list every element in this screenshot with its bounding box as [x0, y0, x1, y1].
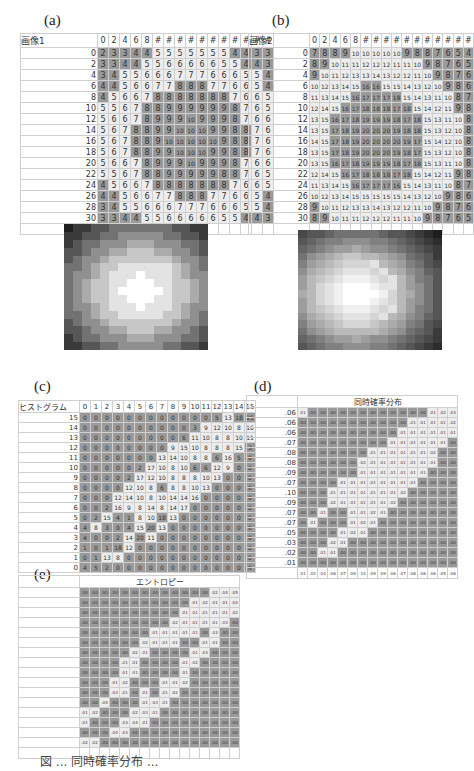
- value-cell: 10: [135, 483, 146, 493]
- value-cell: .01: [110, 678, 120, 688]
- value-cell: 0: [223, 533, 234, 543]
- value-cell: .00: [328, 408, 338, 418]
- value-cell: 8: [212, 433, 223, 443]
- heat-pixel: [154, 342, 163, 350]
- value-cell: .01: [408, 448, 418, 458]
- figure-page: (a) 画像102468###########02334455555554433…: [0, 0, 474, 771]
- value-cell: .00: [230, 678, 240, 688]
- value-cell: .00: [368, 538, 378, 548]
- value-cell: .00: [80, 688, 90, 698]
- heat-pixel: [379, 290, 388, 298]
- heat-pixel: [64, 334, 73, 342]
- heat-pixel: [127, 263, 136, 271]
- value-cell: .00: [190, 668, 200, 678]
- heat-pixel: [145, 240, 154, 248]
- value-cell: .00: [358, 558, 368, 568]
- value-cell: .00: [110, 598, 120, 608]
- heat-pixel: [298, 245, 307, 253]
- heat-pixel: [190, 303, 199, 311]
- row-header: 9: [19, 473, 80, 483]
- heat-pixel: [172, 295, 181, 303]
- value-cell: .00: [180, 698, 190, 708]
- heat-pixel: [406, 298, 415, 306]
- value-cell: 11: [350, 59, 360, 70]
- row-header: 3: [19, 533, 80, 543]
- heat-pixel: [379, 283, 388, 291]
- value-cell: 17: [135, 473, 146, 483]
- value-cell: 17: [361, 180, 371, 191]
- value-cell: .01: [150, 628, 160, 638]
- footer-cell: .06: [328, 568, 338, 579]
- table-row: 04520000000000000: [19, 563, 256, 573]
- heat-pixel: [163, 319, 172, 327]
- heat-pixel: [325, 230, 334, 238]
- value-cell: 8: [412, 48, 422, 59]
- value-cell: 6: [230, 81, 241, 92]
- value-cell: 6: [164, 70, 175, 81]
- value-cell: .01: [338, 488, 348, 498]
- value-cell: 12: [340, 202, 350, 213]
- heat-pixel: [100, 232, 109, 240]
- row-header: 20: [249, 158, 310, 169]
- value-cell: 10: [361, 48, 371, 59]
- value-cell: .02: [230, 608, 240, 618]
- heat-pixel: [397, 290, 406, 298]
- heat-pixel: [307, 253, 316, 261]
- heat-pixel: [127, 240, 136, 248]
- value-cell: 13: [157, 523, 168, 533]
- heat-pixel: [154, 334, 163, 342]
- heat-pixel: [64, 303, 73, 311]
- table-row: 23344556666655443: [21, 59, 274, 70]
- value-cell: 19: [402, 136, 412, 147]
- heat-pixel: [181, 319, 190, 327]
- heat-pixel: [109, 287, 118, 295]
- heat-pixel: [406, 268, 415, 276]
- value-cell: 15: [340, 180, 350, 191]
- value-cell: .00: [318, 438, 328, 448]
- heat-pixel: [127, 334, 136, 342]
- value-cell: .00: [408, 508, 418, 518]
- value-cell: 5: [109, 180, 120, 191]
- value-cell: 12: [340, 70, 350, 81]
- value-cell: 15: [422, 136, 432, 147]
- heat-pixel: [73, 240, 82, 248]
- footer-cell: .02: [308, 568, 318, 579]
- heat-pixel: [361, 283, 370, 291]
- heat-pixel: [172, 326, 181, 334]
- value-cell: 7: [120, 125, 131, 136]
- value-cell: 12: [443, 136, 453, 147]
- heat-pixel: [343, 343, 352, 351]
- value-cell: .00: [220, 678, 230, 688]
- footer-cell: .09: [368, 568, 378, 579]
- value-cell: 4: [80, 533, 91, 543]
- column-header: #: [412, 34, 422, 48]
- heat-pixel: [307, 245, 316, 253]
- value-cell: .02: [130, 648, 140, 658]
- value-cell: 8: [168, 463, 179, 473]
- value-cell: 13: [168, 513, 179, 523]
- value-cell: 0: [179, 413, 190, 423]
- value-cell: .01: [438, 428, 448, 438]
- value-cell: 8: [91, 523, 102, 533]
- heat-pixel: [181, 295, 190, 303]
- value-cell: .00: [110, 618, 120, 628]
- value-cell: .00: [200, 628, 210, 638]
- table-row: 150000000000005131825: [19, 413, 256, 423]
- value-cell: 18: [113, 543, 124, 553]
- value-cell: 4: [131, 213, 142, 224]
- value-cell: 17: [179, 503, 190, 513]
- value-cell: .00: [428, 488, 438, 498]
- value-cell: 8: [453, 92, 463, 103]
- value-cell: 0: [113, 563, 124, 573]
- heat-pixel: [154, 319, 163, 327]
- value-cell: .00: [170, 738, 180, 748]
- heat-pixel: [73, 326, 82, 334]
- column-header: 1: [91, 401, 102, 413]
- value-cell: 8: [230, 136, 241, 147]
- value-cell: 15: [320, 136, 330, 147]
- value-cell: .00: [298, 448, 308, 458]
- heat-pixel: [181, 256, 190, 264]
- heat-pixel: [325, 313, 334, 321]
- value-cell: 17: [330, 147, 340, 158]
- value-cell: 9: [422, 59, 432, 70]
